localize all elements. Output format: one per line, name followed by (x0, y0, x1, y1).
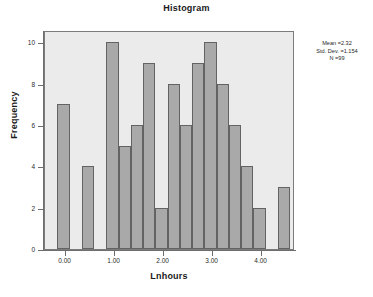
histogram-bar (119, 146, 131, 249)
y-axis-tick (38, 209, 43, 210)
y-axis-tick (38, 85, 43, 86)
histogram-bar (253, 208, 265, 249)
histogram-bar (278, 187, 290, 249)
histogram-chart: Histogram 0246810 Frequency 0.001.002.00… (0, 0, 373, 297)
histogram-bar (57, 104, 69, 249)
x-axis-tick-label: 3.00 (192, 257, 232, 264)
histogram-bar (192, 63, 204, 249)
chart-title: Histogram (0, 3, 373, 13)
histogram-bar (229, 125, 241, 249)
statistics-annotation: Mean =2.32 Std. Dev. =1.154 N =99 (303, 40, 371, 63)
x-axis-tick-label: 4.00 (241, 257, 281, 264)
histogram-bar (131, 125, 143, 249)
x-axis-tick-label: 0.00 (45, 257, 85, 264)
std-dev-value: Std. Dev. =1.154 (303, 48, 371, 56)
histogram-bar (106, 42, 118, 249)
y-axis-tick-label: 10 (5, 39, 35, 46)
histogram-bar (168, 84, 180, 249)
histogram-bar (217, 84, 229, 249)
histogram-bar (155, 208, 167, 249)
y-axis-tick (38, 167, 43, 168)
mean-value: Mean =2.32 (303, 40, 371, 48)
y-axis-title: Frequency (9, 65, 19, 165)
x-axis-tick-label: 1.00 (94, 257, 134, 264)
histogram-bar (180, 125, 192, 249)
y-axis-tick (38, 126, 43, 127)
x-axis-title: Lnhours (44, 271, 294, 281)
y-axis-line (43, 31, 44, 251)
x-axis-tick (65, 251, 66, 256)
y-axis-tick (38, 43, 43, 44)
x-axis-tick (261, 251, 262, 256)
x-axis-tick (163, 251, 164, 256)
histogram-bar (82, 166, 94, 249)
x-axis-tick-label: 2.00 (143, 257, 183, 264)
x-axis-tick (114, 251, 115, 256)
y-axis-tick-label: 2 (5, 205, 35, 212)
sample-size-value: N =99 (303, 55, 371, 63)
histogram-bar (204, 42, 216, 249)
histogram-bars (45, 32, 293, 249)
histogram-bar (143, 63, 155, 249)
plot-area (44, 31, 294, 250)
x-axis-line (38, 250, 296, 251)
y-axis-tick-label: 0 (5, 246, 35, 253)
histogram-bar (241, 166, 253, 249)
x-axis-tick (212, 251, 213, 256)
